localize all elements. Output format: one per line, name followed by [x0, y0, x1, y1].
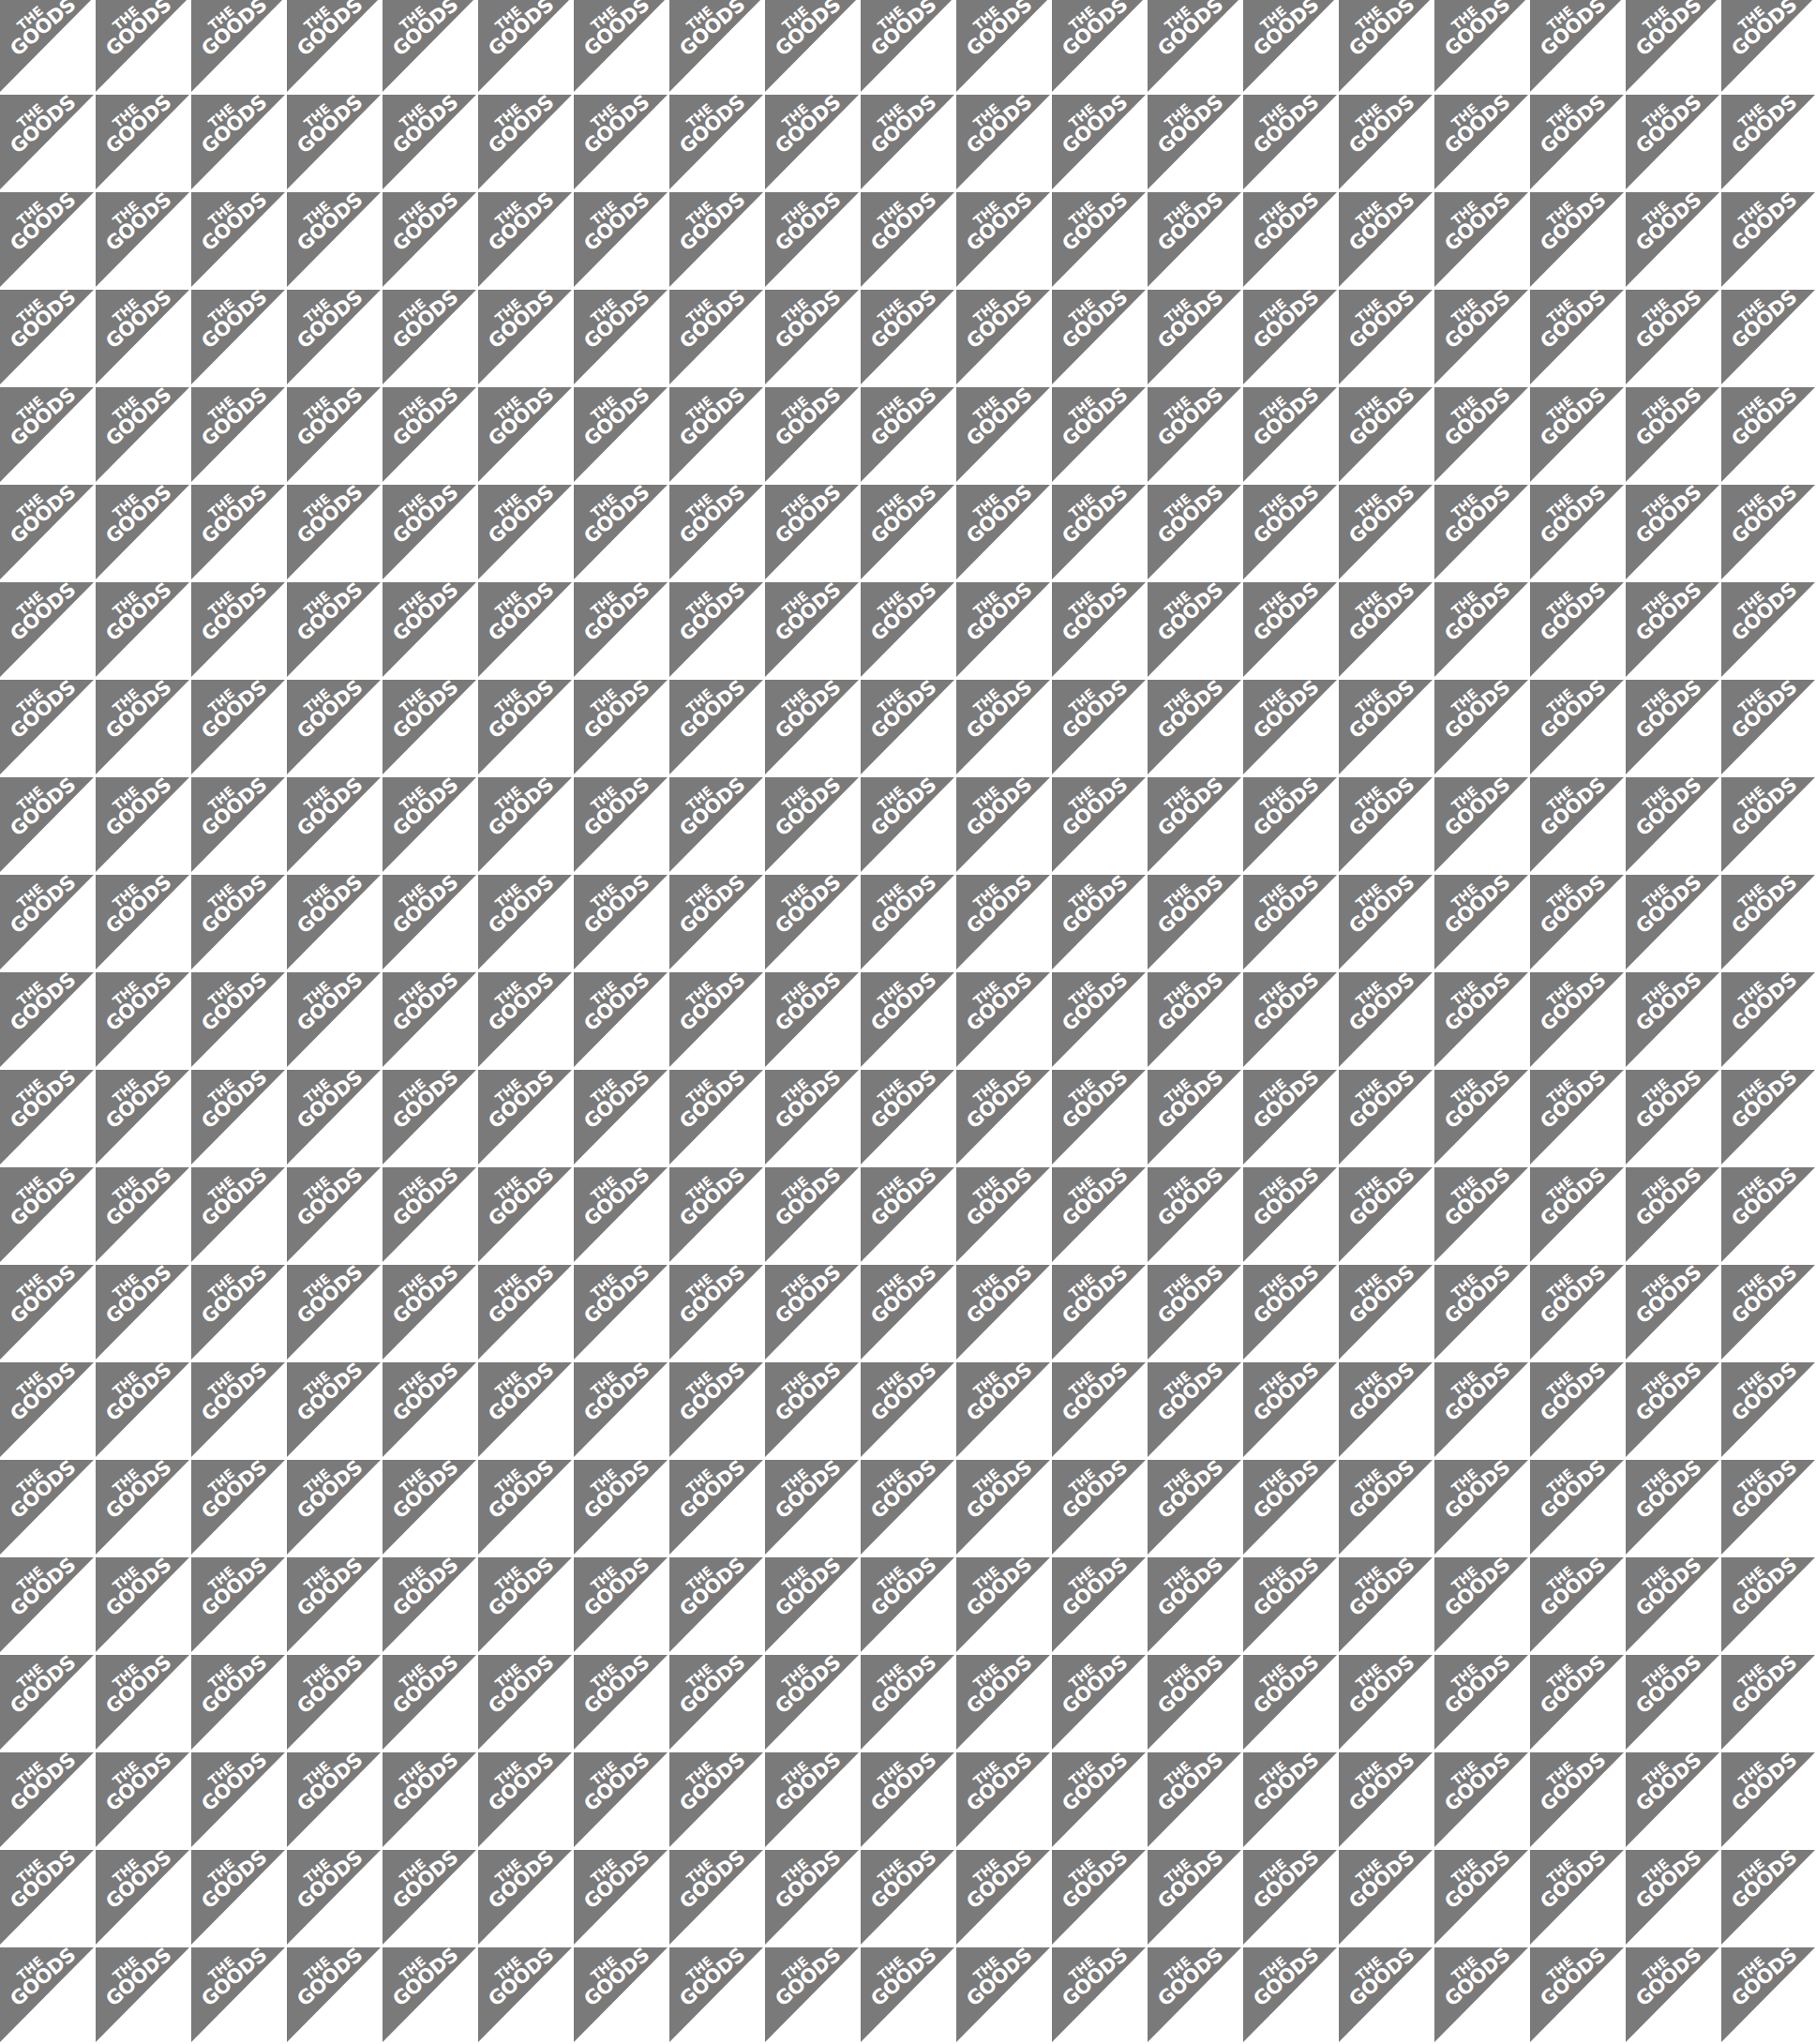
pattern-tile: THEGOODS	[668, 1751, 764, 1849]
pattern-tile: THEGOODS	[95, 1654, 190, 1751]
pattern-tile: THEGOODS	[764, 679, 860, 776]
pattern-tile: THEGOODS	[1051, 484, 1147, 581]
pattern-tile: THEGOODS	[955, 386, 1051, 484]
pattern-tile: THEGOODS	[1625, 1946, 1720, 2044]
pattern-tile: THEGOODS	[860, 776, 955, 874]
pattern-tile: THEGOODS	[95, 1069, 190, 1166]
pattern-tile: THEGOODS	[1625, 1751, 1720, 1849]
pattern-tile: THEGOODS	[764, 0, 860, 94]
pattern-tile: THEGOODS	[764, 191, 860, 289]
pattern-tile: THEGOODS	[860, 1069, 955, 1166]
pattern-tile: THEGOODS	[1147, 776, 1242, 874]
pattern-tile: THEGOODS	[1529, 679, 1625, 776]
pattern-tile: THEGOODS	[860, 679, 955, 776]
pattern-tile: THEGOODS	[1433, 1654, 1529, 1751]
pattern-tile: THEGOODS	[1625, 191, 1720, 289]
pattern-tile: THEGOODS	[1051, 1946, 1147, 2044]
pattern-tile: THEGOODS	[764, 1946, 860, 2044]
pattern-tile: THEGOODS	[190, 1654, 286, 1751]
pattern-tile: THEGOODS	[1242, 1654, 1338, 1751]
pattern-tile: THEGOODS	[477, 1069, 573, 1166]
pattern-tile: THEGOODS	[286, 1069, 382, 1166]
pattern-tile: THEGOODS	[573, 971, 668, 1069]
pattern-tile: THEGOODS	[1242, 1849, 1338, 1946]
pattern-tile: THEGOODS	[860, 1946, 955, 2044]
pattern-tile: THEGOODS	[286, 1556, 382, 1654]
pattern-tile: THEGOODS	[1242, 1946, 1338, 2044]
pattern-tile: THEGOODS	[573, 1069, 668, 1166]
pattern-tile: THEGOODS	[1625, 1069, 1720, 1166]
pattern-tile: THEGOODS	[95, 94, 190, 191]
pattern-tile: THEGOODS	[668, 1069, 764, 1166]
pattern-tile: THEGOODS	[573, 1459, 668, 1556]
pattern-tile: THEGOODS	[1242, 191, 1338, 289]
pattern-tile: THEGOODS	[1433, 289, 1529, 386]
pattern-tile: THEGOODS	[764, 1654, 860, 1751]
pattern-tile: THEGOODS	[1433, 679, 1529, 776]
pattern-tile: THEGOODS	[860, 191, 955, 289]
pattern-tile: THEGOODS	[190, 1459, 286, 1556]
pattern-tile: THEGOODS	[1051, 1654, 1147, 1751]
pattern-tile: THEGOODS	[860, 1459, 955, 1556]
pattern-tile: THEGOODS	[764, 874, 860, 971]
pattern-tile: THEGOODS	[860, 94, 955, 191]
pattern-tile: THEGOODS	[1433, 1069, 1529, 1166]
pattern-tile: THEGOODS	[764, 776, 860, 874]
pattern-tile: THEGOODS	[955, 1264, 1051, 1361]
pattern-tile: THEGOODS	[668, 679, 764, 776]
pattern-tile: THEGOODS	[1433, 1556, 1529, 1654]
pattern-tile: THEGOODS	[1051, 1556, 1147, 1654]
pattern-tile: THEGOODS	[1242, 1751, 1338, 1849]
pattern-tile: THEGOODS	[286, 94, 382, 191]
pattern-tile: THEGOODS	[955, 289, 1051, 386]
pattern-tile: THEGOODS	[573, 0, 668, 94]
pattern-tile: THEGOODS	[1720, 874, 1816, 971]
pattern-tile: THEGOODS	[1720, 971, 1816, 1069]
pattern-tile: THEGOODS	[1625, 1654, 1720, 1751]
pattern-tile: THEGOODS	[955, 1556, 1051, 1654]
pattern-tile: THEGOODS	[1338, 776, 1433, 874]
pattern-tile: THEGOODS	[0, 1946, 95, 2044]
pattern-tile: THEGOODS	[477, 386, 573, 484]
pattern-tile: THEGOODS	[95, 776, 190, 874]
pattern-tile: THEGOODS	[1625, 94, 1720, 191]
pattern-tile: THEGOODS	[1338, 94, 1433, 191]
pattern-tile: THEGOODS	[668, 191, 764, 289]
pattern-tile: THEGOODS	[860, 1654, 955, 1751]
pattern-tile: THEGOODS	[382, 1556, 477, 1654]
pattern-tile: THEGOODS	[477, 776, 573, 874]
pattern-tile: THEGOODS	[0, 289, 95, 386]
pattern-tile: THEGOODS	[1433, 1361, 1529, 1459]
pattern-tile: THEGOODS	[573, 1166, 668, 1264]
pattern-tile: THEGOODS	[1242, 1361, 1338, 1459]
pattern-tile: THEGOODS	[95, 1166, 190, 1264]
pattern-tile: THEGOODS	[382, 1849, 477, 1946]
pattern-tile: THEGOODS	[477, 679, 573, 776]
pattern-tile: THEGOODS	[190, 1849, 286, 1946]
pattern-tile: THEGOODS	[477, 94, 573, 191]
pattern-tile: THEGOODS	[382, 0, 477, 94]
pattern-tile: THEGOODS	[1051, 1459, 1147, 1556]
pattern-tile: THEGOODS	[1051, 679, 1147, 776]
pattern-tile: THEGOODS	[0, 776, 95, 874]
pattern-tile: THEGOODS	[95, 1264, 190, 1361]
pattern-tile: THEGOODS	[573, 191, 668, 289]
pattern-tile: THEGOODS	[1625, 679, 1720, 776]
pattern-tile: THEGOODS	[1051, 776, 1147, 874]
pattern-tile: THEGOODS	[95, 679, 190, 776]
pattern-tile: THEGOODS	[573, 1556, 668, 1654]
pattern-tile: THEGOODS	[860, 1849, 955, 1946]
pattern-tile: THEGOODS	[1338, 679, 1433, 776]
pattern-tile: THEGOODS	[95, 1946, 190, 2044]
pattern-tile: THEGOODS	[668, 1556, 764, 1654]
pattern-tile: THEGOODS	[1625, 1459, 1720, 1556]
pattern-tile: THEGOODS	[955, 1166, 1051, 1264]
pattern-tile: THEGOODS	[0, 971, 95, 1069]
pattern-tile: THEGOODS	[382, 386, 477, 484]
pattern-tile: THEGOODS	[764, 1069, 860, 1166]
pattern-tile: THEGOODS	[1625, 971, 1720, 1069]
pattern-tile: THEGOODS	[573, 289, 668, 386]
pattern-tile: THEGOODS	[1147, 581, 1242, 679]
pattern-tile: THEGOODS	[1338, 1361, 1433, 1459]
pattern-tile: THEGOODS	[477, 971, 573, 1069]
